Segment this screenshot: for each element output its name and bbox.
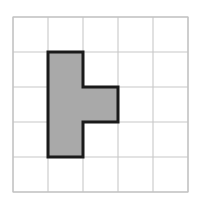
grid-figure-container	[0, 0, 203, 211]
grid-figure-canvas	[0, 0, 203, 211]
